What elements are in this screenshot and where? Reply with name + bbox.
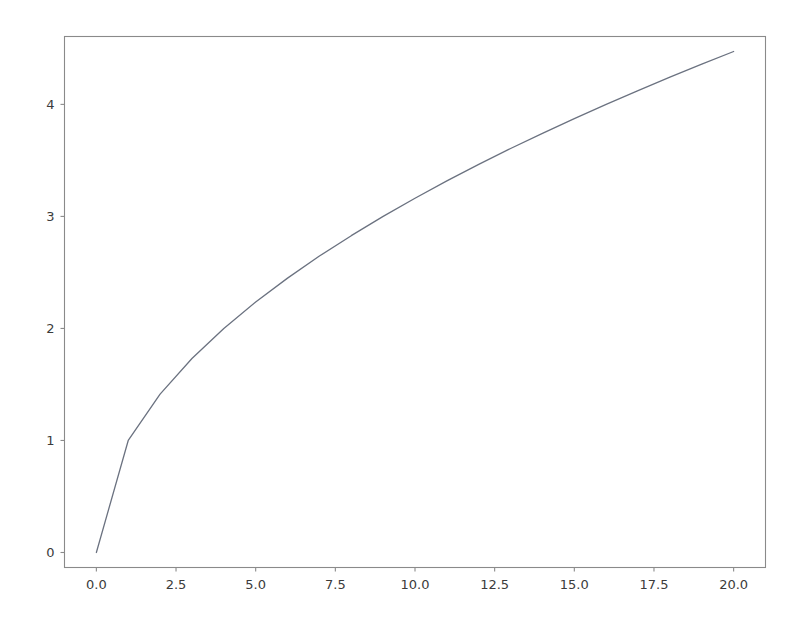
y-tick-label: 1 (46, 433, 54, 448)
y-tick-label: 4 (46, 97, 54, 112)
y-tick-label: 0 (46, 545, 54, 560)
x-tick-label: 0.0 (86, 577, 107, 592)
x-axis-tick-labels: 0.02.55.07.510.012.515.017.520.0 (86, 577, 748, 592)
y-tick-label: 3 (46, 209, 54, 224)
y-tick-label: 2 (46, 321, 54, 336)
x-tick-label: 7.5 (325, 577, 346, 592)
figure-canvas: 0.02.55.07.510.012.515.017.520.0 01234 (0, 0, 803, 627)
axes-background (65, 37, 766, 568)
line-chart: 0.02.55.07.510.012.515.017.520.0 01234 (0, 0, 803, 627)
x-tick-label: 5.0 (245, 577, 266, 592)
x-tick-label: 2.5 (166, 577, 187, 592)
x-tick-label: 15.0 (560, 577, 589, 592)
x-tick-label: 20.0 (719, 577, 748, 592)
x-tick-label: 10.0 (401, 577, 430, 592)
x-tick-label: 17.5 (640, 577, 669, 592)
x-tick-label: 12.5 (480, 577, 509, 592)
